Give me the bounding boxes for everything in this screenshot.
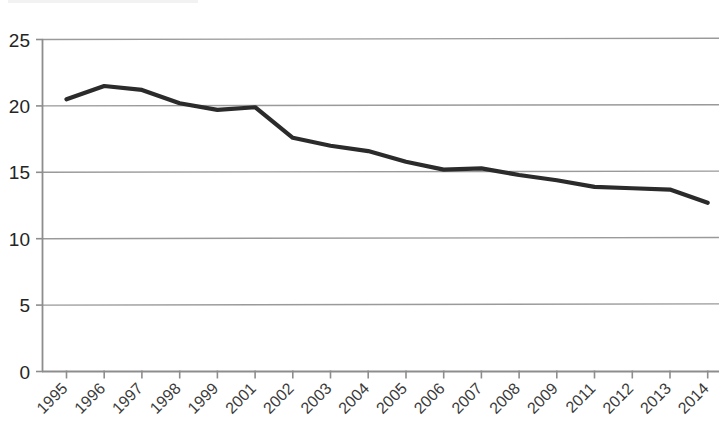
y-axis-tick-label: 25: [9, 30, 30, 51]
y-axis-tick-label: 5: [19, 295, 30, 316]
y-axis-tick-label: 15: [9, 162, 30, 183]
scan-artifact: [8, 0, 198, 3]
chart-container: 0510152025 19951996199719981999200120022…: [0, 0, 726, 436]
y-axis-tick-label: 20: [9, 96, 30, 117]
y-axis-tick-label: 0: [19, 362, 30, 383]
y-axis-tick-label: 10: [9, 229, 30, 250]
line-chart: 0510152025 19951996199719981999200120022…: [0, 0, 726, 436]
